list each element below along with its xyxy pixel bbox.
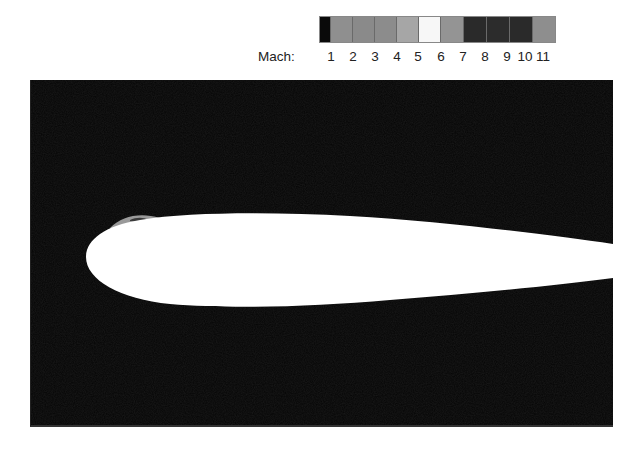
legend-tick-2: 2 (343, 49, 363, 64)
legend-segment-11 (533, 17, 555, 42)
plot-frame (30, 80, 613, 427)
legend-segment-5 (397, 17, 419, 42)
legend-segment-7 (441, 17, 464, 42)
legend-tick-7: 7 (453, 49, 473, 64)
legend-segment-10 (510, 17, 533, 42)
legend-tick-8: 8 (475, 49, 495, 64)
legend-tick-1: 1 (321, 49, 341, 64)
legend-tick-11: 11 (533, 49, 553, 64)
legend-segment-8 (464, 17, 487, 42)
legend-tick-6: 6 (431, 49, 451, 64)
legend-segment-2 (331, 17, 353, 42)
legend-segment-4 (375, 17, 397, 42)
legend-segment-9 (487, 17, 510, 42)
legend-segment-3 (353, 17, 375, 42)
legend-tick-4: 4 (387, 49, 407, 64)
legend-segment-6 (419, 17, 441, 42)
legend-tick-3: 3 (365, 49, 385, 64)
legend-segment-1 (320, 17, 331, 42)
mach-legend-colorbar (319, 16, 556, 43)
legend-tick-5: 5 (408, 49, 428, 64)
legend-tick-9: 9 (497, 49, 517, 64)
legend-tick-10: 10 (515, 49, 535, 64)
legend-title: Mach: (258, 49, 295, 64)
